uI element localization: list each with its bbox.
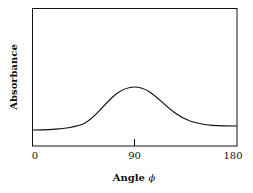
x-tick-label-90: 90 <box>128 150 141 161</box>
x-axis-label: Angle ϕ <box>112 172 156 183</box>
x-tick-label-0: 0 <box>32 150 38 161</box>
absorbance-chart: 0 90 180 Angle ϕ Absorbance <box>0 0 253 193</box>
y-axis-label: Absorbance <box>8 44 19 111</box>
plot-frame <box>33 9 238 147</box>
absorbance-curve <box>33 87 238 130</box>
x-tick-label-180: 180 <box>223 150 242 161</box>
